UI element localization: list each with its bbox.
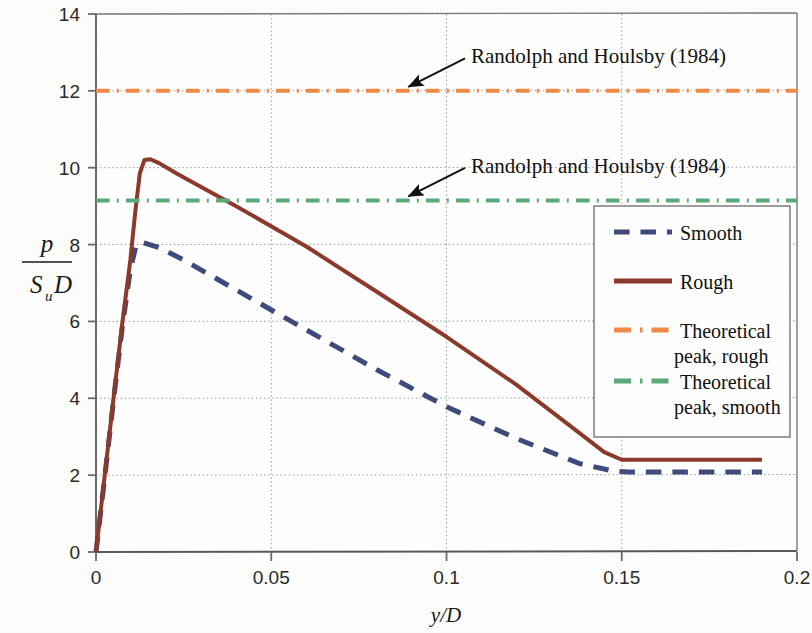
legend-label: Smooth bbox=[680, 222, 742, 244]
y-axis-title: p S u D bbox=[22, 230, 72, 304]
y-axis-title-denominator-s: S bbox=[30, 271, 43, 298]
x-tick-label: 0.05 bbox=[253, 567, 290, 588]
legend-label-line2: peak, rough bbox=[674, 345, 768, 368]
y-tick-label: 14 bbox=[59, 4, 81, 25]
y-axis-title-denominator-d: D bbox=[53, 271, 72, 298]
y-tick-label: 2 bbox=[69, 465, 80, 486]
legend-label: Theoretical bbox=[680, 320, 771, 342]
x-axis-title: y/D bbox=[429, 603, 461, 627]
x-axis-line bbox=[96, 551, 797, 552]
x-axis-ticks bbox=[96, 552, 797, 561]
annotation-label: Randolph and Houlsby (1984) bbox=[471, 154, 726, 178]
y-tick-label: 4 bbox=[69, 388, 80, 409]
x-tick-label: 0 bbox=[91, 567, 102, 588]
chart-svg: 02468101214 00.050.10.150.2 Randolph and… bbox=[0, 0, 812, 633]
legend-label: Rough bbox=[680, 271, 733, 294]
y-axis-title-numerator: p bbox=[39, 230, 54, 257]
y-axis-ticks bbox=[88, 14, 96, 552]
x-axis-tick-labels: 00.050.10.150.2 bbox=[91, 567, 811, 588]
y-tick-label: 8 bbox=[69, 235, 80, 256]
legend-label-line2: peak, smooth bbox=[674, 396, 781, 419]
chart-figure: 02468101214 00.050.10.150.2 Randolph and… bbox=[0, 0, 812, 633]
y-tick-label: 10 bbox=[59, 158, 80, 179]
annotation-label: Randolph and Houlsby (1984) bbox=[471, 44, 726, 68]
x-tick-label: 0.1 bbox=[433, 567, 459, 588]
y-tick-label: 6 bbox=[69, 311, 80, 332]
x-tick-label: 0.2 bbox=[784, 567, 810, 588]
y-tick-label: 12 bbox=[59, 81, 80, 102]
x-tick-label: 0.15 bbox=[603, 567, 640, 588]
chart-legend[interactable]: SmoothRoughTheoreticalpeak, roughTheoret… bbox=[594, 206, 790, 437]
y-tick-label: 0 bbox=[69, 542, 80, 563]
y-axis-title-denominator-subscript: u bbox=[45, 288, 53, 304]
legend-label: Theoretical bbox=[680, 371, 771, 393]
